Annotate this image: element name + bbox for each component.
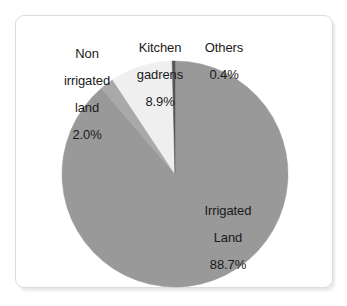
figure-root: Non irrigated land 2.0% Kitchen gadrens … <box>0 0 347 306</box>
pie-chart <box>0 0 347 306</box>
pie-slices <box>62 61 288 287</box>
